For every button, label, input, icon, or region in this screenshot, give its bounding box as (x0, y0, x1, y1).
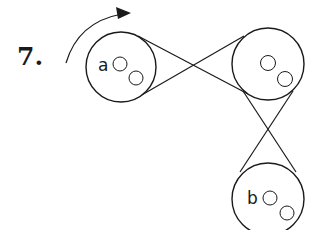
pulley-diagram: a b (0, 0, 319, 230)
pulley-a: a (86, 32, 156, 102)
pulley-a-label: a (98, 55, 108, 75)
pulley-top-right (232, 28, 304, 100)
pulley-b-label: b (247, 188, 258, 208)
pulley-b: b (232, 163, 304, 230)
crossed-belt-top-to-b (240, 91, 296, 172)
